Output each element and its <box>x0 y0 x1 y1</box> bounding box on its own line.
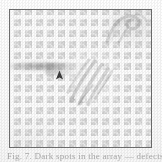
figure-panel: Fig. 7. Dark spots in the array — defect… <box>0 0 162 162</box>
micrograph-frame <box>9 9 152 148</box>
array-grid <box>10 10 151 147</box>
figure-caption: Fig. 7. Dark spots in the array — defect… <box>7 151 159 161</box>
caption-strip: Fig. 7. Dark spots in the array — defect… <box>0 149 162 162</box>
arrowhead-pointer-icon <box>55 70 64 81</box>
